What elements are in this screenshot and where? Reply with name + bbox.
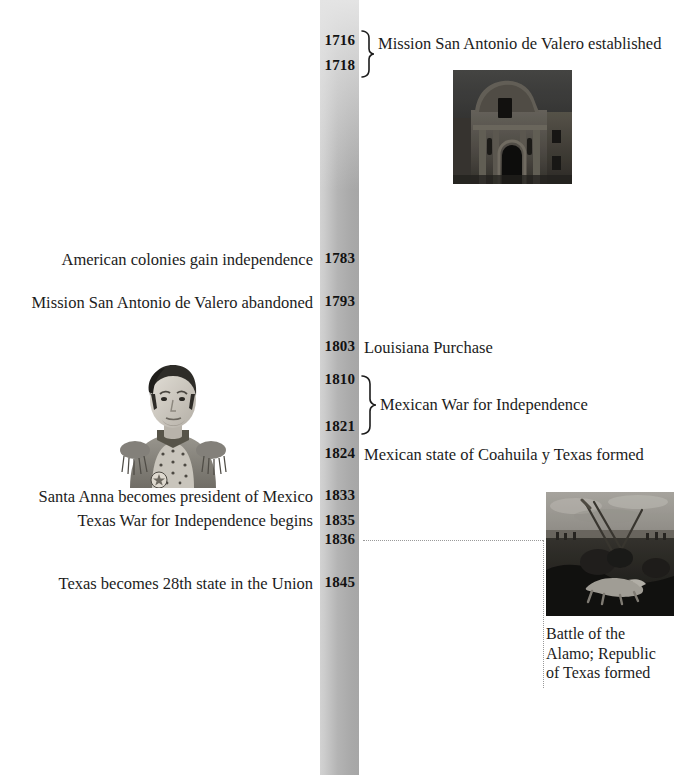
year-1836: 1836 [320, 531, 359, 548]
brace-1810-1821 [360, 375, 378, 435]
year-1783: 1783 [320, 250, 359, 267]
battle-caption-line-2: Alamo; Republic [546, 644, 656, 664]
leader-line-horizontal [363, 540, 543, 541]
leader-line-vertical [543, 540, 544, 688]
event-label-santa-anna-president: Santa Anna becomes president of Mexico [39, 487, 313, 506]
event-label-mission-abandoned: Mission San Antonio de Valero abandoned [31, 293, 313, 312]
event-label-texas-war-begins: Texas War for Independence begins [78, 511, 313, 530]
santa-anna-portrait [112, 348, 234, 488]
year-1803: 1803 [320, 338, 359, 355]
brace-1716-1718 [360, 30, 376, 78]
event-label-louisiana-purchase: Louisiana Purchase [364, 338, 493, 357]
year-1810: 1810 [320, 371, 359, 388]
alamo-mission-photograph [453, 70, 572, 184]
event-label-american-independence: American colonies gain independence [61, 250, 313, 269]
battle-caption: Battle of the Alamo; Republic of Texas f… [546, 624, 656, 683]
year-1716: 1716 [320, 32, 359, 49]
year-1821: 1821 [320, 418, 359, 435]
year-1835: 1835 [320, 512, 359, 529]
event-label-mission-established: Mission San Antonio de Valero establishe… [378, 34, 661, 53]
event-label-texas-28th-state: Texas becomes 28th state in the Union [58, 574, 313, 593]
year-1833: 1833 [320, 487, 359, 504]
year-1793: 1793 [320, 293, 359, 310]
event-label-mexican-war: Mexican War for Independence [380, 395, 588, 414]
battle-of-the-alamo-painting [546, 492, 674, 616]
year-1845: 1845 [320, 574, 359, 591]
year-1824: 1824 [320, 445, 359, 462]
event-label-coahuila-texas: Mexican state of Coahuila y Texas formed [364, 445, 644, 464]
battle-caption-line-1: Battle of the [546, 624, 656, 644]
year-1718: 1718 [320, 57, 359, 74]
battle-caption-line-3: of Texas formed [546, 663, 656, 683]
